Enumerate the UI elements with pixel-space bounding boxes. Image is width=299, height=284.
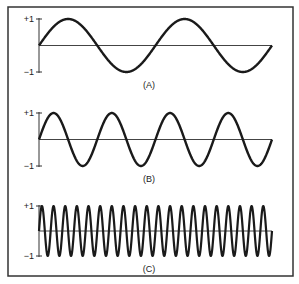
sine-wave-curve <box>39 206 272 256</box>
wave-panel-a: +1−1(A) <box>24 14 272 90</box>
sine-wave-figure: +1−1(A)+1−1(B)+1−1(C) <box>0 0 299 284</box>
wave-panel-b: +1−1(B) <box>24 108 272 184</box>
y-min-label: −1 <box>24 161 34 171</box>
y-min-label: −1 <box>24 251 34 261</box>
panel-caption: (A) <box>143 80 155 90</box>
y-max-label: +1 <box>24 14 34 24</box>
panel-caption: (C) <box>143 264 156 274</box>
panel-caption: (B) <box>143 174 155 184</box>
wave-panel-c: +1−1(C) <box>24 201 272 274</box>
y-max-label: +1 <box>24 201 34 211</box>
y-min-label: −1 <box>24 67 34 77</box>
y-max-label: +1 <box>24 108 34 118</box>
